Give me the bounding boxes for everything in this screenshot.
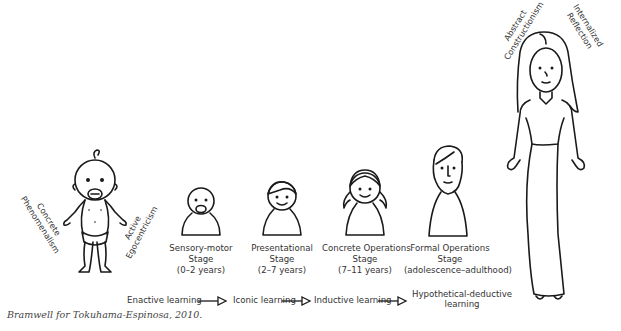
step-label: Hypothetical-deductive [412, 289, 512, 299]
label-line: (2–7 years) [243, 265, 321, 276]
adult-figure [500, 28, 590, 328]
flow-step-enactive: Enactive learning [127, 295, 202, 305]
step-label: Enactive learning [127, 295, 202, 305]
formal-operations-figure [426, 146, 470, 240]
sensory-motor-figure [178, 185, 224, 240]
label-line: (0–2 years) [162, 265, 240, 276]
presentational-label: Presentational Stage (2–7 years) [243, 243, 321, 276]
label-line: Formal Operations [404, 243, 496, 254]
label-line: (7–11 years) [322, 265, 408, 276]
label-line: (adolescence–adulthood) [404, 265, 496, 276]
label-line: Presentational [243, 243, 321, 254]
formal-operations-label: Formal Operations Stage (adolescence–adu… [404, 243, 496, 276]
concrete-operations-figure [340, 166, 390, 238]
open-triangle-arrow-icon [378, 296, 408, 308]
step-label: learning [412, 299, 512, 309]
figure-credit: Bramwell for Tokuhama-Espinosa, 2010. [7, 309, 202, 320]
flow-step-hypothetical-deductive: Hypothetical-deductive learning [412, 289, 512, 309]
open-triangle-arrow-icon [282, 296, 312, 308]
label-line: Stage [243, 254, 321, 265]
presentational-figure [259, 176, 305, 238]
sensory-motor-label: Sensory-motor Stage (0–2 years) [162, 243, 240, 276]
concrete-operations-label: Concrete Operations Stage (7–11 years) [322, 243, 408, 276]
label-line: Stage [322, 254, 408, 265]
infant-figure [55, 148, 135, 278]
label-line: Stage [162, 254, 240, 265]
open-triangle-arrow-icon [198, 296, 228, 308]
label-line: Sensory-motor [162, 243, 240, 254]
label-line: Stage [404, 254, 496, 265]
label-line: Concrete Operations [322, 243, 408, 254]
